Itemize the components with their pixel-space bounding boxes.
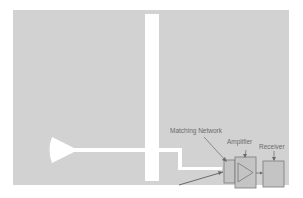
feed-line-to-matching bbox=[178, 167, 222, 170]
vertical-strip bbox=[145, 14, 159, 181]
matching-network-label: Matching Network bbox=[170, 128, 222, 135]
receiver-block bbox=[263, 161, 284, 187]
matching-network-block bbox=[224, 160, 235, 183]
amplifier-label: Amplifier bbox=[227, 139, 252, 146]
antenna-diagram bbox=[0, 0, 303, 198]
feed-line-bend bbox=[178, 148, 182, 170]
receiver-label: Receiver bbox=[259, 144, 285, 151]
feed-line bbox=[72, 148, 182, 152]
